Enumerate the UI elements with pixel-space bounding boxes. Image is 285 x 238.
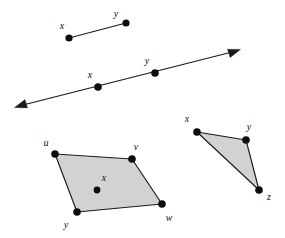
triangle-group xyxy=(193,128,263,194)
quad-vertex-w-dot xyxy=(158,200,166,208)
triangle-vertex-x-dot xyxy=(193,128,201,136)
quad-vertex-y-dot xyxy=(73,208,81,216)
infinite-line-group xyxy=(15,49,241,108)
quad-vertex-w-label: w xyxy=(166,213,173,223)
figure-svg xyxy=(0,0,285,238)
quad-vertex-u-dot xyxy=(51,150,59,158)
quad-vertex-v-dot xyxy=(128,155,136,163)
arrow-head-right-icon xyxy=(228,49,241,57)
line-point-x-label: x xyxy=(88,70,92,80)
quadrilateral-group xyxy=(51,150,166,216)
quadrilateral-shape xyxy=(55,154,162,212)
quad-vertex-u-label: u xyxy=(44,138,49,148)
segment-point-y-dot xyxy=(122,19,129,26)
segment-point-y-label: y xyxy=(114,9,118,19)
triangle-vertex-x-label: x xyxy=(185,114,189,124)
quad-vertex-v-label: v xyxy=(134,142,138,152)
segment-xy-line xyxy=(69,23,126,38)
quad-interior-point-x-dot xyxy=(94,187,101,194)
line-point-y-label: y xyxy=(145,56,149,66)
triangle-vertex-z-label: z xyxy=(267,192,271,202)
segment-point-x-dot xyxy=(65,34,72,41)
quad-interior-point-x-label: x xyxy=(102,173,106,183)
triangle-vertex-y-label: y xyxy=(247,122,251,132)
segment-group xyxy=(65,19,129,41)
figure-canvas: x y x y u v w y x x y z xyxy=(0,0,285,238)
quad-vertex-y-label: y xyxy=(64,220,68,230)
segment-point-x-label: x xyxy=(60,21,64,31)
infinite-line-shaft xyxy=(19,51,236,106)
arrow-head-left-icon xyxy=(15,100,28,108)
triangle-vertex-z-dot xyxy=(255,186,263,194)
line-point-x-dot xyxy=(94,83,102,91)
triangle-vertex-y-dot xyxy=(242,136,250,144)
line-point-y-dot xyxy=(151,69,159,77)
